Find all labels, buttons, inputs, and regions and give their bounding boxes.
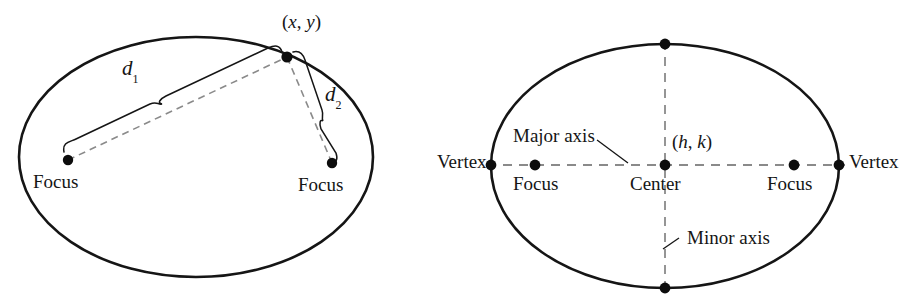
distance-d1-label: d1 xyxy=(122,58,139,82)
minor-axis-label: Minor axis xyxy=(687,228,770,247)
minor-axis-top-dot xyxy=(660,39,671,50)
center-dot xyxy=(660,160,671,171)
left-diagram-focus-left-dot xyxy=(63,155,73,165)
left-diagram-focus-right-label: Focus xyxy=(298,175,343,194)
vertex-left-label: Vertex xyxy=(437,152,487,171)
vertex-right-dot xyxy=(834,160,845,171)
left-diagram-focus-left-label: Focus xyxy=(33,172,78,191)
center-coordinates-label: (h, k) xyxy=(672,132,712,151)
minor-axis-bottom-dot xyxy=(660,283,671,294)
center-label: Center xyxy=(630,174,681,193)
right-diagram-focus-right-dot xyxy=(789,160,800,171)
major-axis-label: Major axis xyxy=(513,126,595,145)
vertex-left-dot xyxy=(486,160,497,171)
left-diagram-focus-right-dot xyxy=(327,158,337,168)
distance-d2-label: d2 xyxy=(325,84,342,108)
vertex-right-label: Vertex xyxy=(849,152,899,171)
ellipse-figure: (x, y) d1 d2 Focus Focus Vertex Vertex M… xyxy=(0,0,916,304)
point-xy-label: (x, y) xyxy=(282,12,321,31)
right-diagram-focus-right-label: Focus xyxy=(767,174,812,193)
right-diagram-focus-left-dot xyxy=(530,160,541,171)
major-axis-leader-line xyxy=(597,140,628,163)
point-xy-dot xyxy=(281,51,292,62)
dashed-focal-radius-1 xyxy=(68,57,287,160)
brace-d1 xyxy=(64,46,282,152)
right-diagram-focus-left-label: Focus xyxy=(513,174,558,193)
